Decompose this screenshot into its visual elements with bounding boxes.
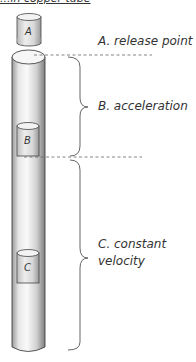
brace-b	[68, 57, 88, 156]
brace-c	[68, 160, 88, 350]
magnet-b-label: B	[24, 135, 31, 146]
magnet-c: C	[17, 250, 39, 284]
magnet-a: A	[17, 14, 41, 47]
copper-tube	[12, 50, 45, 352]
copper-tube-diagram: A B C	[0, 0, 196, 362]
label-release-point: A. release point	[98, 34, 193, 49]
label-acceleration: B. acceleration	[98, 99, 188, 114]
magnet-b: B	[17, 123, 39, 157]
label-constant: C. constant	[98, 237, 166, 252]
magnet-c-label: C	[24, 262, 31, 273]
magnet-a-label: A	[24, 26, 32, 37]
label-velocity: velocity	[98, 254, 145, 269]
